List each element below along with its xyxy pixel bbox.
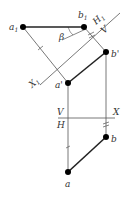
segment-aprime-bprime <box>68 52 106 83</box>
angle-arc <box>68 27 73 35</box>
label-b1: b1 <box>78 10 88 21</box>
label-b-prime: b' <box>111 49 119 59</box>
label-a-prime: a' <box>55 80 63 90</box>
label-a1: a1 <box>9 22 18 33</box>
label-angle-beta: β <box>58 32 64 42</box>
label-axis-h: H <box>56 120 65 130</box>
point-b1 <box>81 24 87 30</box>
angle-reference-line <box>62 29 86 40</box>
label-aux-x1: X1 <box>26 75 42 91</box>
segment-a-b <box>68 137 106 172</box>
label-b: b <box>111 134 117 144</box>
label-a: a <box>65 179 70 189</box>
point-b-prime <box>103 49 109 55</box>
point-a1 <box>20 24 26 30</box>
diagram-canvas: a1 b1 b' a' b a V H X H1 V X1 β <box>0 0 129 199</box>
label-axis-x: X <box>112 107 120 117</box>
point-a <box>65 169 71 175</box>
point-a-prime <box>65 80 71 86</box>
label-aux-v: V <box>99 23 112 36</box>
point-b <box>103 134 109 140</box>
label-axis-v: V <box>57 107 65 117</box>
